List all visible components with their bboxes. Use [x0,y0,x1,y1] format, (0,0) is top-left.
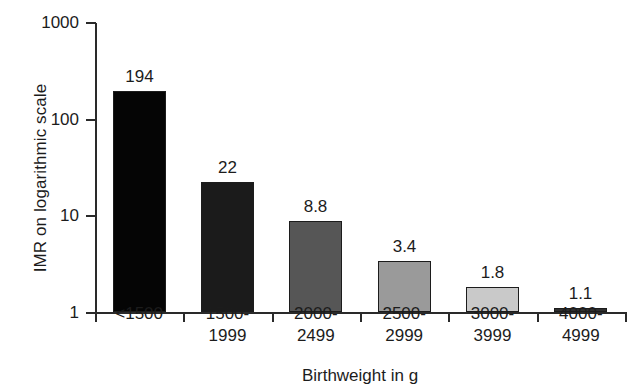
x-axis-title: Birthweight in g [95,366,625,386]
y-axis-tick: 1000 [86,22,96,24]
x-axis-category-line: 1999 [183,325,271,347]
x-axis-category-line: <1500 [95,303,183,325]
x-axis-category-label: 3000-3999 [448,303,536,347]
bar-value-label: 1.8 [481,263,505,283]
x-axis-category-line: 1500- [183,303,271,325]
x-axis-category-label: 4000-4999 [537,303,625,347]
y-axis-tick-label: 100 [51,110,79,130]
y-axis-tick-label: 1 [70,303,79,323]
x-axis-category-label: 1500-1999 [183,303,271,347]
bar-value-label: 22 [218,158,237,178]
y-axis-tick-label: 10 [60,206,79,226]
bar: 8.8 [289,221,342,312]
x-axis-category-line: 2000- [272,303,360,325]
bar-value-label: 194 [125,67,153,87]
y-axis-line [95,23,97,314]
x-axis-category-line: 2500- [360,303,448,325]
y-axis-title: IMR on logarithmic scale [31,33,51,323]
bar-value-label: 3.4 [393,237,417,257]
y-axis-tick-label: 1000 [41,13,79,33]
x-axis-category-line: 2499 [272,325,360,347]
x-axis-tick [625,312,627,322]
bar-value-label: 8.8 [304,197,328,217]
plot-area: 1000100101 194228.83.41.81.1 [95,23,625,313]
x-axis-category-line: 4999 [537,325,625,347]
x-axis-category-line: 3999 [448,325,536,347]
bar-chart: IMR on logarithmic scale 1000100101 1942… [0,0,628,390]
x-axis-category-line: 2999 [360,325,448,347]
bar-value-label: 1.1 [569,284,593,304]
y-axis-tick: 10 [86,215,96,217]
bar: 22 [201,182,254,312]
x-axis-category-line: 4000- [537,303,625,325]
bar: 194 [113,91,166,312]
y-axis-tick: 100 [86,119,96,121]
x-axis-category-label: <1500 [95,303,183,325]
x-axis-category-line: 3000- [448,303,536,325]
x-axis-category-label: 2500-2999 [360,303,448,347]
x-axis-category-label: 2000-2499 [272,303,360,347]
